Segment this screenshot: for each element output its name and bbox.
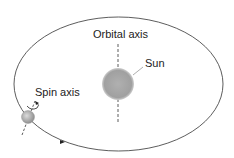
sun-icon (102, 68, 134, 100)
orbital-axis-label: Orbital axis (93, 29, 148, 40)
earth-icon (22, 111, 35, 124)
sun-label: Sun (145, 58, 165, 69)
spin-axis-label: Spin axis (35, 87, 80, 98)
orbit-diagram (0, 0, 234, 158)
sun-leader-line (133, 67, 143, 75)
